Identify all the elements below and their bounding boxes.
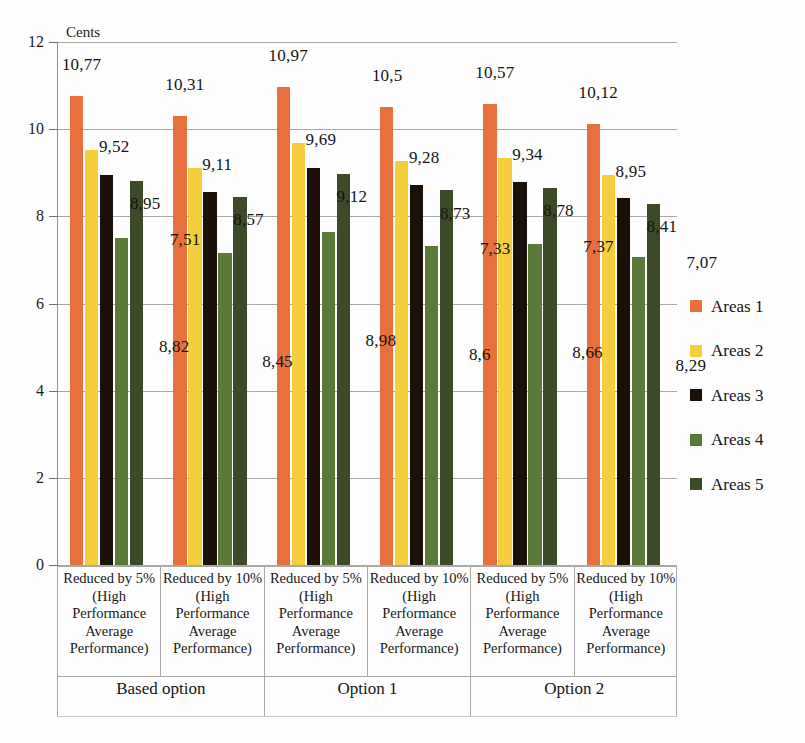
value-label-group5-series4: 8,66	[572, 344, 603, 361]
bar-group3-series4	[322, 232, 336, 565]
value-label-group5-series5: 7,37	[583, 238, 614, 255]
bar-group3-series5	[337, 174, 351, 565]
category-cell-4-line-5: Performance)	[368, 640, 470, 658]
value-label-group5-series2: 9,34	[512, 146, 543, 163]
y-tick-label-8: 8	[8, 208, 44, 224]
value-label-group4-series2: 9,28	[409, 149, 440, 166]
y-axis-title: Cents	[66, 24, 100, 41]
bar-group4-series4	[425, 246, 439, 565]
value-label-group5-series3: 8,78	[543, 202, 574, 219]
bar-group2-series3	[203, 192, 217, 566]
legend-label-1: Areas 1	[711, 298, 763, 315]
category-cell-1-line-4: Average	[58, 623, 160, 641]
bar-group2-series5	[233, 197, 247, 565]
legend-item-4[interactable]: Areas 4	[690, 430, 763, 450]
bar-group2-series2	[188, 168, 202, 565]
category-cell-6-line-1: Reduced by 10%	[575, 570, 677, 588]
category-cell-2-line-5: Performance)	[161, 640, 263, 658]
legend-swatch-icon-4	[690, 434, 702, 446]
bar-group4-series3	[410, 185, 424, 565]
category-cell-6-line-2: (High	[575, 588, 677, 606]
value-label-group4-series3: 8,73	[440, 205, 471, 222]
value-label-group3-series3: 9,12	[337, 188, 368, 205]
bar-group6-series3	[617, 198, 631, 565]
bar-group1-series2	[85, 150, 99, 565]
group-cell-2: Option 1	[264, 676, 471, 716]
category-cell-3-line-1: Reduced by 5%	[265, 570, 367, 588]
value-label-group2-series2: 9,11	[202, 156, 232, 173]
bar-group5-series4	[528, 244, 542, 565]
bar-group2-series4	[218, 253, 232, 565]
bar-group6-series4	[632, 257, 646, 565]
value-label-group2-series1: 10,31	[165, 76, 204, 93]
category-cell-1-line-1: Reduced by 5%	[58, 570, 160, 588]
bar-group5-series1	[483, 104, 497, 565]
bar-group3-series1	[277, 87, 291, 565]
y-tick-label-0: 0	[8, 557, 44, 573]
legend-item-1[interactable]: Areas 1	[690, 296, 763, 316]
value-label-group5-series1: 10,57	[475, 64, 514, 81]
category-cell-4-line-1: Reduced by 10%	[368, 570, 470, 588]
category-cell-2-line-3: Performance	[161, 605, 263, 623]
y-tick-label-2: 2	[8, 470, 44, 486]
value-label-group3-series4: 8,98	[366, 332, 397, 349]
bar-group1-series3	[100, 175, 114, 565]
value-label-group4-series4: 8,6	[469, 346, 491, 363]
bar-group5-series2	[498, 158, 512, 565]
legend-item-2[interactable]: Areas 2	[690, 341, 763, 361]
value-label-group6-series5: 7,07	[687, 254, 718, 271]
legend-label-3: Areas 3	[711, 387, 763, 404]
value-label-group1-series3: 8,95	[130, 195, 161, 212]
value-label-group3-series1: 10,97	[269, 47, 308, 64]
category-cell-5-line-3: Performance	[471, 605, 573, 623]
value-label-group1-series2: 9,52	[99, 138, 130, 155]
legend-swatch-icon-1	[690, 300, 702, 312]
y-tick-label-4: 4	[8, 383, 44, 399]
value-label-group1-series1: 10,77	[62, 56, 101, 73]
legend-swatch-icon-3	[690, 389, 702, 401]
legend-item-3[interactable]: Areas 3	[690, 385, 763, 405]
category-cell-4-line-4: Average	[368, 623, 470, 641]
value-label-group3-series2: 9,69	[306, 131, 337, 148]
category-cell-3-line-4: Average	[265, 623, 367, 641]
group-cell-3: Option 2	[470, 676, 677, 716]
category-cell-2: Reduced by 10%(HighPerformanceAveragePer…	[160, 566, 263, 676]
legend-label-5: Areas 5	[711, 476, 763, 493]
value-label-group6-series1: 10,12	[579, 84, 618, 101]
value-label-group6-series2: 8,95	[616, 163, 647, 180]
legend-item-5[interactable]: Areas 5	[690, 474, 763, 494]
category-cell-3-line-5: Performance)	[265, 640, 367, 658]
bar-group5-series3	[513, 182, 527, 565]
bar-group4-series2	[395, 161, 409, 565]
bar-group6-series5	[647, 204, 661, 565]
group-cell-1: Based option	[57, 676, 264, 716]
category-cell-6-line-5: Performance)	[575, 640, 677, 658]
value-label-group2-series4: 8,45	[262, 353, 293, 370]
category-cell-3-line-3: Performance	[265, 605, 367, 623]
legend-label-4: Areas 4	[711, 431, 763, 448]
value-label-group2-series3: 8,57	[233, 211, 264, 228]
category-cell-6: Reduced by 10%(HighPerformanceAveragePer…	[574, 566, 677, 676]
value-label-group1-series4: 8,82	[159, 338, 190, 355]
category-cell-6-line-4: Average	[575, 623, 677, 641]
bar-chart: Cents 024681012 10,779,528,958,827,5110,…	[0, 0, 805, 743]
bars-layer	[57, 42, 677, 565]
bar-group1-series4	[115, 238, 129, 565]
legend-swatch-icon-5	[690, 478, 702, 490]
category-cell-1-line-2: (High	[58, 588, 160, 606]
legend-swatch-icon-2	[690, 345, 702, 357]
category-cell-5-line-5: Performance)	[471, 640, 573, 658]
value-label-group6-series3: 8,41	[647, 218, 678, 235]
y-tick-label-10: 10	[8, 121, 44, 137]
value-label-group4-series5: 7,33	[480, 240, 511, 257]
category-cell-5: Reduced by 5%(HighPerformanceAveragePerf…	[470, 566, 573, 676]
bar-group5-series5	[543, 188, 557, 565]
y-tick-label-6: 6	[8, 296, 44, 312]
category-cell-3: Reduced by 5%(HighPerformanceAveragePerf…	[264, 566, 367, 676]
value-label-group1-series5: 7,51	[170, 231, 201, 248]
bar-group6-series2	[602, 175, 616, 565]
category-cell-1: Reduced by 5%(HighPerformanceAveragePerf…	[57, 566, 160, 676]
category-cell-3-line-2: (High	[265, 588, 367, 606]
group-axis: Based optionOption 1Option 2	[57, 676, 677, 716]
category-cell-4-line-2: (High	[368, 588, 470, 606]
